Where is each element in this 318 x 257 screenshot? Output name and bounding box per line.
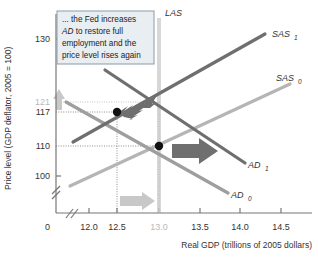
y-axis-title: Price level (GDP deflator, 2005 = 100) (3, 47, 13, 190)
real-gdp-right-arrow-icon (120, 192, 155, 210)
ad0-label: AD 0 (230, 190, 252, 202)
svg-text:SAS: SAS (276, 73, 294, 83)
explanation-line-2-emphasis: AD (61, 27, 73, 36)
x-tick-label-13-0: 13.0 (150, 222, 168, 232)
y-tick-label-0: 0 (45, 222, 50, 232)
explanation-line-4: price level rises again (62, 51, 141, 60)
y-tick-label-130: 130 (35, 34, 50, 44)
svg-text:0: 0 (298, 78, 302, 85)
x-tick-label-13-5: 13.5 (191, 222, 209, 232)
y-tick-label-100: 100 (35, 171, 50, 181)
equilibrium-move-arrow-icon (119, 95, 157, 120)
x-axis-title: Real GDP (trillions of 2005 dollars) (181, 240, 312, 250)
svg-text:SAS: SAS (272, 29, 290, 39)
explanation-line-2: AD to restore full (61, 27, 123, 36)
equilibrium-point-b (155, 142, 163, 150)
price-level-up-arrow-icon (53, 89, 65, 110)
sas1-label: SAS 1 (272, 29, 298, 41)
equilibrium-point-a (113, 108, 121, 116)
y-tick-label-121: 121 (35, 97, 50, 107)
svg-text:1: 1 (265, 165, 269, 172)
x-tick-label-12-5: 12.5 (108, 222, 126, 232)
y-tick-label-110: 110 (36, 141, 50, 151)
explanation-line-2-rest: to restore full (73, 27, 123, 36)
svg-text:1: 1 (294, 34, 298, 41)
explanation-line-3: employment and the (62, 39, 137, 48)
svg-text:AD: AD (230, 190, 244, 200)
sas0-curve (70, 84, 290, 186)
ad1-label: AD 1 (247, 160, 269, 172)
y-tick-label-117: 117 (36, 107, 50, 117)
x-tick-label-14-5: 14.5 (272, 222, 290, 232)
figure-container: 130 121 117 110 100 0 12.0 12.5 13.0 13.… (0, 0, 318, 257)
x-tick-label-14-0: 14.0 (231, 222, 249, 232)
svg-text:AD: AD (247, 160, 261, 170)
x-tick-label-12-0: 12.0 (80, 222, 98, 232)
ad-as-chart: 130 121 117 110 100 0 12.0 12.5 13.0 13.… (0, 0, 318, 257)
las-label: LAS (165, 8, 182, 18)
svg-text:0: 0 (248, 195, 252, 202)
explanation-line-1: ... the Fed increases (62, 15, 136, 24)
